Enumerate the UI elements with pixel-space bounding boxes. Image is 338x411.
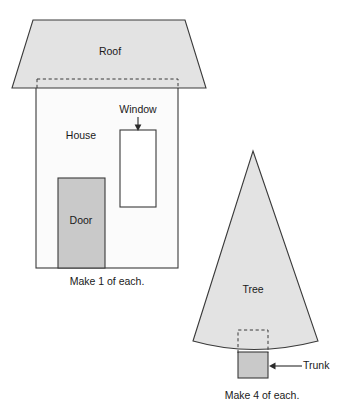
house-body-shape [36,79,178,268]
tree-group: Tree Trunk Make 4 of each. [193,151,330,401]
door-label: Door [70,214,93,226]
window-shape [120,130,156,207]
house-label: House [66,129,97,141]
tree-shape [193,151,318,350]
tree-label: Tree [242,283,263,295]
trunk-shape [238,352,268,378]
tree-group-caption: Make 4 of each. [225,389,300,401]
trunk-arrow-head-icon [269,363,276,370]
pattern-diagram: Roof House Door Window Make 1 of each. T… [0,0,338,411]
trunk-label: Trunk [303,359,330,371]
house-group-caption: Make 1 of each. [70,275,145,287]
window-label: Window [119,103,157,115]
diagram-canvas: Roof House Door Window Make 1 of each. T… [0,0,338,411]
roof-label: Roof [99,45,121,57]
house-group: Roof House Door Window Make 1 of each. [12,20,206,287]
